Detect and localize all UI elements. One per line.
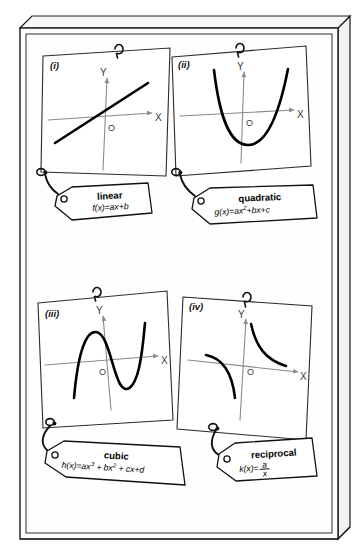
tag-linear-title: linear <box>97 189 123 201</box>
card-reciprocal-y-label: Y <box>238 309 245 320</box>
card-reciprocal-numeral: (iv) <box>189 301 203 312</box>
card-cubic-origin-label: O <box>99 367 106 377</box>
card-linear-y-label: Y <box>100 67 107 78</box>
tag-reciprocal-formula-lead: k(x)= <box>239 463 259 474</box>
card-linear-x-label: X <box>155 112 162 123</box>
board-top-edge <box>20 16 350 28</box>
card-linear[interactable]: (i) X Y O <box>37 44 170 194</box>
tag-cubic-eyelet-icon <box>52 452 58 458</box>
tag-linear-eyelet-icon <box>61 196 67 202</box>
tag-cubic-formula-base3: + cx+d <box>116 463 145 475</box>
tag-quadratic[interactable]: quadratic g(x)=ax2+bx+c <box>192 185 317 224</box>
board-right-edge <box>338 16 350 539</box>
board-canvas: .ink{stroke:#111;fill:none;stroke-lineca… <box>0 0 358 545</box>
tag-cubic-title: cubic <box>104 449 129 461</box>
tag-reciprocal-eyelet-icon <box>224 456 230 462</box>
tag-cubic-formula-base2: + bx <box>94 462 114 473</box>
tag-reciprocal[interactable]: reciprocal k(x)= a x <box>217 438 317 481</box>
card-reciprocal-x-label: X <box>300 371 307 382</box>
tag-quadratic-formula-base2: +bx+c <box>246 204 271 215</box>
tag-quadratic-title: quadratic <box>238 191 281 204</box>
card-quadratic-numeral: (ii) <box>178 59 190 70</box>
tag-quadratic-eyelet-icon <box>198 198 204 204</box>
card-cubic-numeral: (iii) <box>45 308 59 319</box>
card-quadratic-y-label: Y <box>237 61 244 72</box>
card-linear-numeral: (i) <box>50 60 59 71</box>
card-cubic-y-label: Y <box>96 305 103 316</box>
card-reciprocal-origin-label: O <box>247 367 254 377</box>
tag-linear[interactable]: linear f(x)=ax+b <box>55 183 152 220</box>
tag-quadratic-formula-base1: g(x)=ax <box>214 206 244 217</box>
card-quadratic-origin-label: O <box>246 118 253 128</box>
tag-linear-formula: f(x)=ax+b <box>92 201 129 213</box>
card-reciprocal[interactable]: (iv) X Y O <box>177 292 312 455</box>
pinboard-scene: .ink{stroke:#111;fill:none;stroke-lineca… <box>0 0 358 545</box>
tag-cubic-formula-base1: h(x)=ax <box>61 460 91 472</box>
card-linear-origin-label: O <box>108 123 115 133</box>
card-cubic-x-label: X <box>161 355 168 366</box>
card-quadratic-x-label: X <box>297 109 304 120</box>
